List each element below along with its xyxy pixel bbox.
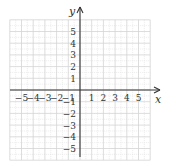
x-axis-label: x (155, 93, 162, 106)
x-tick-label: 4 (124, 93, 130, 103)
x-tick-label: 2 (101, 93, 107, 103)
y-axis (77, 7, 83, 157)
y-tick-label: −2 (63, 109, 76, 119)
y-axis-label: y (68, 5, 76, 18)
x-tick-label: 1 (89, 93, 95, 103)
y-tick-label: 4 (70, 39, 76, 49)
y-tick-label: −5 (63, 144, 77, 154)
y-tick-label: 1 (70, 74, 76, 84)
y-tick-label: −3 (63, 121, 77, 131)
y-tick-label: −4 (63, 132, 77, 142)
x-tick-label: 5 (136, 93, 142, 103)
y-tick-label: 2 (70, 62, 76, 72)
x-tick-label: 3 (112, 93, 118, 103)
y-tick-label: 5 (70, 27, 76, 37)
coordinate-plane: x y −5−4−3−2−112345 54321−1−2−3−4−5 (0, 0, 176, 166)
y-tick-label: 3 (70, 50, 76, 60)
y-tick-label: −1 (63, 97, 76, 107)
